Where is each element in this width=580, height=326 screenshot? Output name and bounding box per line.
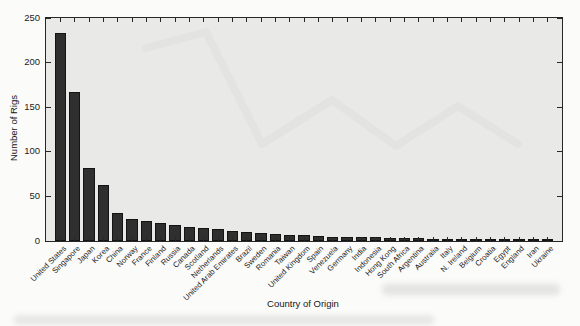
y-axis-tick — [46, 196, 51, 197]
x-axis-tick — [304, 237, 305, 241]
x-axis-tick — [504, 18, 505, 22]
x-axis-tick — [447, 237, 448, 241]
x-axis-tick — [160, 237, 161, 241]
x-axis-tick — [175, 237, 176, 241]
y-axis-tick — [557, 18, 562, 19]
x-axis-tick — [318, 18, 319, 22]
x-axis-tick — [318, 237, 319, 241]
x-axis-tick — [246, 18, 247, 22]
x-axis-tick — [533, 237, 534, 241]
y-axis-tick — [46, 151, 51, 152]
y-axis-tick — [46, 62, 51, 63]
y-tick-label: 50 — [10, 190, 40, 201]
x-axis-tick — [519, 18, 520, 22]
x-axis-tick — [347, 18, 348, 22]
x-axis-tick — [60, 237, 61, 241]
x-axis-tick — [476, 237, 477, 241]
x-axis-tick — [89, 237, 90, 241]
x-axis-tick — [189, 237, 190, 241]
x-axis-tick — [117, 237, 118, 241]
y-axis-tick — [46, 241, 51, 242]
x-axis-tick — [361, 18, 362, 22]
x-axis-tick — [490, 18, 491, 22]
y-axis-tick — [557, 241, 562, 242]
x-axis-tick — [189, 18, 190, 22]
x-axis-tick — [476, 18, 477, 22]
x-axis-tick — [547, 18, 548, 22]
x-axis-tick — [103, 237, 104, 241]
x-axis-tick — [490, 237, 491, 241]
x-axis-tick — [132, 18, 133, 22]
x-axis-tick — [103, 18, 104, 22]
x-axis-tick — [533, 18, 534, 22]
x-axis-tick — [89, 18, 90, 22]
y-axis-tick — [46, 18, 51, 19]
x-axis-tick — [275, 237, 276, 241]
x-axis-tick — [117, 18, 118, 22]
x-axis-tick — [232, 237, 233, 241]
x-axis-tick — [461, 237, 462, 241]
x-axis-tick — [375, 237, 376, 241]
x-axis-tick — [160, 18, 161, 22]
x-axis-tick — [461, 18, 462, 22]
x-axis-tick — [404, 18, 405, 22]
x-axis-tick — [519, 237, 520, 241]
x-axis-title: Country of Origin — [45, 298, 561, 309]
x-axis-tick — [332, 237, 333, 241]
x-axis-tick — [404, 237, 405, 241]
x-axis-tick — [132, 237, 133, 241]
x-axis-tick — [218, 18, 219, 22]
y-tick-label: 0 — [10, 235, 40, 246]
x-axis-tick — [218, 237, 219, 241]
x-axis-tick — [203, 237, 204, 241]
x-axis-tick — [146, 18, 147, 22]
bar-chart-figure: 050100150200250 United StatesSingaporeJa… — [0, 0, 580, 326]
x-axis-tick — [60, 18, 61, 22]
x-axis-tick — [289, 18, 290, 22]
x-axis-tick — [275, 18, 276, 22]
x-axis-tick — [175, 18, 176, 22]
x-axis-tick — [74, 237, 75, 241]
x-axis-tick — [261, 237, 262, 241]
x-axis-tick — [304, 18, 305, 22]
x-axis-tick — [390, 18, 391, 22]
x-axis-tick — [504, 237, 505, 241]
x-axis-tick — [433, 237, 434, 241]
scan-watermark — [46, 18, 562, 241]
x-axis-tick — [433, 18, 434, 22]
x-axis-tick — [146, 237, 147, 241]
x-axis-tick — [547, 237, 548, 241]
y-axis-tick — [557, 151, 562, 152]
y-axis-tick — [557, 196, 562, 197]
scan-smudge — [382, 284, 560, 295]
x-axis-tick — [203, 18, 204, 22]
x-axis-tick — [289, 237, 290, 241]
bar — [55, 33, 67, 241]
y-tick-label: 200 — [10, 56, 40, 67]
x-axis-tick — [347, 237, 348, 241]
x-axis-tick — [74, 18, 75, 22]
x-axis-tick — [232, 18, 233, 22]
x-axis-tick — [361, 237, 362, 241]
x-axis-tick — [418, 237, 419, 241]
y-axis-tick — [557, 107, 562, 108]
y-tick-label: 250 — [10, 12, 40, 23]
x-axis-tick — [332, 18, 333, 22]
x-axis-tick — [375, 18, 376, 22]
x-axis-tick — [447, 18, 448, 22]
y-axis-title: Number of Rigs — [8, 95, 19, 161]
scan-smudge — [14, 316, 434, 324]
x-axis-tick — [418, 18, 419, 22]
y-axis-tick — [557, 62, 562, 63]
bar — [98, 185, 110, 241]
x-axis-tick — [261, 18, 262, 22]
x-axis-tick — [390, 237, 391, 241]
x-axis-tick — [246, 237, 247, 241]
bar — [69, 92, 81, 241]
bar — [83, 168, 95, 241]
y-axis-tick — [46, 107, 51, 108]
plot-area — [45, 17, 563, 242]
